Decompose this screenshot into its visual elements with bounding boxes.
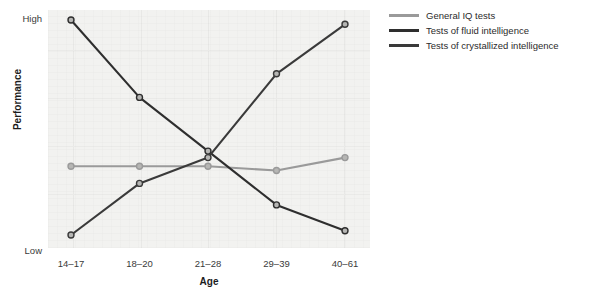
legend-item-fluid-intelligence: Tests of fluid intelligence xyxy=(389,23,594,38)
data-point-marker-2 xyxy=(205,148,211,154)
x-tick-label-4: 40–61 xyxy=(315,258,375,269)
x-tick-label-1: 18–20 xyxy=(110,258,170,269)
x-tick-label-2: 21–28 xyxy=(178,258,238,269)
data-point-marker-4 xyxy=(342,155,348,161)
data-point-marker-3 xyxy=(274,71,280,77)
x-axis-title: Age xyxy=(48,276,370,287)
legend-label: Tests of fluid intelligence xyxy=(426,25,529,36)
x-tick-label-0: 14–17 xyxy=(41,258,101,269)
series-tests-of-crystallized-intelligence xyxy=(68,21,348,238)
legend-item-general-iq: General IQ tests xyxy=(389,8,594,23)
data-point-marker-1 xyxy=(137,163,143,169)
legend-item-crystallized-intelligence: Tests of crystallized intelligence xyxy=(389,38,594,53)
series-line xyxy=(71,20,345,231)
legend-swatch-icon xyxy=(389,29,419,33)
data-point-marker-0 xyxy=(68,17,74,23)
legend-label: Tests of crystallized intelligence xyxy=(426,40,559,51)
data-point-marker-1 xyxy=(137,94,143,100)
legend-swatch-icon xyxy=(389,14,419,17)
legend-label: General IQ tests xyxy=(426,10,495,21)
series-tests-of-fluid-intelligence xyxy=(68,17,348,234)
data-point-marker-0 xyxy=(68,232,74,238)
data-point-marker-2 xyxy=(205,163,211,169)
data-point-marker-2 xyxy=(205,155,211,161)
line-chart: High Low Performance 14–1718–2021–2829–3… xyxy=(0,0,596,302)
data-point-marker-3 xyxy=(274,168,280,174)
data-point-marker-1 xyxy=(137,180,143,186)
x-tick-label-3: 29–39 xyxy=(247,258,307,269)
legend-swatch-icon xyxy=(389,44,419,48)
data-point-marker-4 xyxy=(342,228,348,234)
data-point-marker-3 xyxy=(274,202,280,208)
data-point-marker-0 xyxy=(68,163,74,169)
series-line xyxy=(71,24,345,235)
data-point-marker-4 xyxy=(342,21,348,27)
chart-legend: General IQ tests Tests of fluid intellig… xyxy=(389,8,594,53)
